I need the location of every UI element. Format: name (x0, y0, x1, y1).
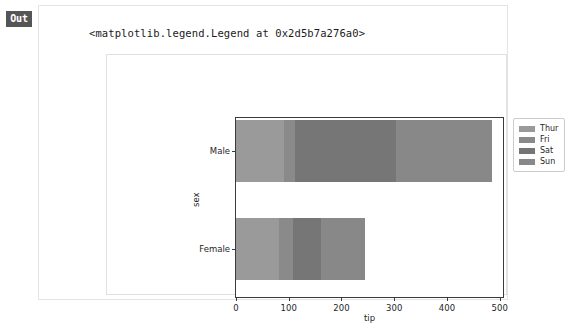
legend-label: Sat (540, 146, 553, 155)
plot-area (236, 118, 503, 297)
x-tick-mark (289, 297, 290, 301)
y-tick-label: Male (210, 146, 230, 156)
legend-swatch-sun (519, 159, 535, 165)
matplotlib-figure: MaleFemale 0100200300400500 sex tip Thur… (106, 54, 507, 295)
legend-swatch-fri (519, 137, 535, 143)
y-tick-mark (232, 249, 236, 250)
y-axis-label: sex (191, 192, 201, 207)
x-tick-label: 200 (333, 303, 349, 313)
bar-segment-female-fri (279, 218, 293, 280)
bar-segment-female-sun (321, 218, 365, 280)
legend-entry-sat: Sat (519, 145, 558, 156)
bar-segment-female-thur (236, 218, 279, 280)
x-axis-label: tip (235, 313, 504, 323)
output-prompt-badge: Out (6, 11, 32, 27)
x-tick-mark (394, 297, 395, 301)
x-tick-mark (500, 297, 501, 301)
chart-legend: ThurFriSatSun (513, 118, 565, 172)
x-tick-label: 400 (439, 303, 455, 313)
bar-segment-male-sun (396, 120, 492, 182)
legend-swatch-sat (519, 148, 535, 154)
x-tick-label: 500 (492, 303, 508, 313)
legend-swatch-thur (519, 126, 535, 132)
x-tick-label: 300 (386, 303, 402, 313)
bar-group-male (236, 120, 492, 182)
legend-entry-thur: Thur (519, 123, 558, 134)
bar-segment-male-thur (236, 120, 284, 182)
x-tick-label: 0 (233, 303, 238, 313)
x-tick-label: 100 (281, 303, 297, 313)
y-tick-mark (232, 151, 236, 152)
x-tick-mark (447, 297, 448, 301)
legend-label: Fri (540, 135, 550, 144)
legend-label: Sun (540, 157, 555, 166)
chart-axes: MaleFemale 0100200300400500 (235, 117, 504, 298)
output-frame: <matplotlib.legend.Legend at 0x2d5b7a276… (38, 5, 508, 300)
legend-repr-text: <matplotlib.legend.Legend at 0x2d5b7a276… (89, 27, 365, 39)
bar-segment-female-sat (293, 218, 321, 280)
legend-entry-fri: Fri (519, 134, 558, 145)
y-tick-label: Female (199, 244, 230, 254)
legend-entry-sun: Sun (519, 156, 558, 167)
legend-label: Thur (540, 124, 558, 133)
bar-segment-male-sat (295, 120, 396, 182)
bar-group-female (236, 218, 365, 280)
x-tick-mark (236, 297, 237, 301)
bar-segment-male-fri (284, 120, 295, 182)
x-tick-mark (341, 297, 342, 301)
